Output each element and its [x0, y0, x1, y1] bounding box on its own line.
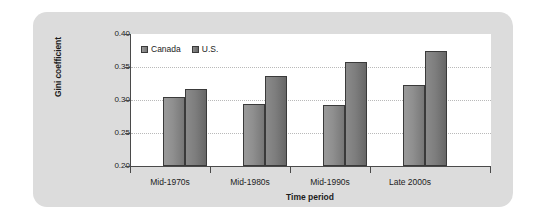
- bar-us-mid-1990s[interactable]: [345, 62, 367, 166]
- bar-canada-mid-1980s[interactable]: [243, 104, 265, 166]
- bar-us-mid-1980s[interactable]: [265, 76, 287, 166]
- x-tick-label-mid-1980s: Mid-1980s: [210, 177, 290, 187]
- y-axis-ticks: 0.40 0.35 0.30 0.25 0.20: [95, 12, 130, 207]
- legend-label-us: U.S.: [202, 44, 219, 54]
- x-tick-label-late-2000s: Late 2000s: [370, 177, 450, 187]
- bar-canada-mid-1970s[interactable]: [163, 97, 185, 166]
- x-tick-label-mid-1990s: Mid-1990s: [290, 177, 370, 187]
- x-tick-label-mid-1970s: Mid-1970s: [130, 177, 210, 187]
- x-axis-title: Time period: [130, 192, 490, 202]
- chart-figure: Gini coefficient 0.40 0.35 0.30 0.25 0.2…: [0, 0, 543, 222]
- bar-canada-mid-1990s[interactable]: [323, 105, 345, 166]
- x-axis-line: [130, 166, 490, 167]
- y-axis-title: Gini coefficient: [53, 22, 67, 112]
- legend-label-canada: Canada: [151, 44, 181, 54]
- bar-canada-late-2000s[interactable]: [403, 85, 425, 166]
- x-tick-mark-end: [490, 166, 491, 173]
- legend-entry-canada[interactable]: Canada: [141, 44, 181, 54]
- x-tick-mark-start: [130, 166, 131, 173]
- x-tick-mark-1: [210, 166, 211, 173]
- legend-entry-us[interactable]: U.S.: [192, 44, 219, 54]
- x-tick-mark-3: [370, 166, 371, 173]
- bar-us-late-2000s[interactable]: [425, 51, 447, 166]
- bar-chart: Gini coefficient 0.40 0.35 0.30 0.25 0.2…: [33, 12, 513, 207]
- bar-us-mid-1970s[interactable]: [185, 89, 207, 166]
- legend-swatch-us-icon: [192, 46, 199, 53]
- x-tick-mark-2: [290, 166, 291, 173]
- legend-swatch-canada-icon: [141, 46, 148, 53]
- chart-legend: Canada U.S.: [141, 44, 218, 54]
